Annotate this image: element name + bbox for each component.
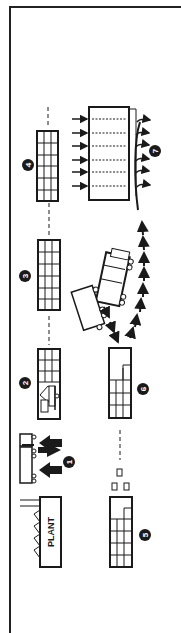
delivery-arrows	[38, 435, 62, 478]
step-badge-2: 2	[19, 377, 31, 389]
rack-3	[38, 203, 60, 345]
truck-middle-upper	[96, 247, 135, 307]
step-badge-6: 6	[137, 383, 149, 395]
plant-building: PLANT	[20, 497, 61, 567]
rack-5	[110, 497, 132, 567]
step-badge-4: 4	[22, 159, 34, 171]
step-badge-7: 7	[149, 145, 161, 157]
delivery-truck	[20, 434, 36, 483]
svg-text:6: 6	[139, 386, 148, 391]
step-badge-3: 3	[19, 270, 31, 282]
svg-text:7: 7	[151, 148, 160, 153]
svg-text:1: 1	[65, 459, 74, 464]
step-badge-1: 1	[63, 456, 75, 468]
boxes	[112, 430, 129, 490]
svg-text:5: 5	[141, 532, 150, 537]
svg-text:2: 2	[21, 380, 30, 385]
loading-area-7	[72, 107, 150, 210]
rack-4	[37, 107, 58, 201]
rack-6	[109, 348, 131, 418]
step-badge-5: 5	[139, 529, 151, 541]
svg-text:PLANT: PLANT	[46, 517, 56, 547]
svg-text:3: 3	[21, 273, 30, 278]
svg-text:4: 4	[24, 162, 33, 167]
rack-2	[38, 349, 60, 419]
